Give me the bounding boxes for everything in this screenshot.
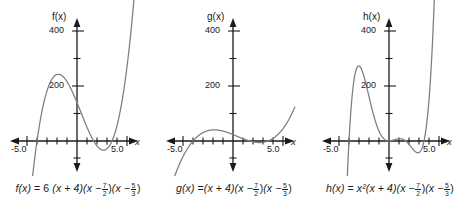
plot-title-g: g(x) (207, 11, 224, 22)
equation-f-factor3-open: (x − (112, 182, 130, 194)
y-ticks-g (228, 31, 240, 158)
x-axis-label-g: x (291, 136, 296, 147)
x-axis-label-h: x (447, 136, 452, 147)
y-axis-h (386, 18, 393, 172)
y-tick-label-f-400: 400 (49, 25, 64, 35)
equation-g: g(x) =(x + 4)(x −72)(x −53) (156, 182, 312, 197)
equation-f: f(x) = 6 (x + 4)(x −72)(x −53) (0, 182, 156, 197)
equation-f-coefficient: 6 (43, 182, 49, 194)
x-tick-label-g-left: -5.0 (167, 144, 183, 154)
equation-f-factor2-open: (x − (83, 182, 101, 194)
x-tick-label-g-right: 5.0 (267, 144, 280, 154)
equation-f-factor1: (x + 4) (52, 182, 83, 194)
x-tick-label-f-right: 5.0 (111, 144, 124, 154)
equation-h-equals: = (348, 182, 354, 194)
equation-g-fraction-2: 72 (253, 182, 259, 197)
plot-area-g: g(x) -5.0 5.0 x 200 400 (156, 0, 312, 176)
y-tick-label-f-200: 200 (49, 80, 64, 90)
y-axis-f (74, 18, 81, 172)
plot-area-h: h(x) -5.0 5.0 x 200 400 (312, 0, 468, 176)
equation-g-factor1: (x + 4) (204, 182, 235, 194)
y-tick-label-h-200: 200 (361, 80, 376, 90)
plot-area-f: f(x) -5.0 5.0 x 200 400 (0, 0, 156, 176)
equation-g-factor2-open: (x − (235, 182, 253, 194)
equation-g-factor3-open: (x − (263, 182, 281, 194)
three-polynomial-graphs-figure: f(x) -5.0 5.0 x 200 400 f(x) = 6 (x + 4)… (0, 0, 470, 214)
equation-f-lhs: f(x) (16, 182, 32, 194)
equation-h-factor3-close: ) (450, 182, 454, 194)
plot-panel-h: h(x) -5.0 5.0 x 200 400 h(x) = x²(x + 4)… (312, 0, 468, 214)
plot-title-h: h(x) (363, 11, 380, 22)
equation-h-lhs: h(x) (326, 182, 344, 194)
equation-h-factor1: (x + 4) (366, 182, 397, 194)
equation-f-equals: = (34, 182, 40, 194)
plot-panel-f: f(x) -5.0 5.0 x 200 400 f(x) = 6 (x + 4)… (0, 0, 156, 214)
equation-f-fraction-3: 53 (131, 182, 137, 197)
y-tick-label-g-400: 400 (205, 25, 220, 35)
x-tick-label-f-left: -5.0 (11, 144, 27, 154)
x-axis-label-f: x (135, 136, 140, 147)
equation-g-factor3-close: ) (288, 182, 292, 194)
equation-h-factor2-open: (x − (397, 182, 415, 194)
equation-h-factor3-open: (x − (425, 182, 443, 194)
equation-f-factor3-close: ) (137, 182, 141, 194)
equation-h-fraction-2: 72 (415, 182, 421, 197)
plot-title-f: f(x) (52, 11, 66, 22)
plot-panel-g: g(x) -5.0 5.0 x 200 400 g(x) =(x + 4)(x … (156, 0, 312, 214)
equation-g-lhs: g(x) (176, 182, 194, 194)
equation-h: h(x) = x²(x + 4)(x −72)(x −53) (312, 182, 468, 197)
x-tick-label-h-right: 5.0 (423, 144, 436, 154)
equation-f-fraction-2: 72 (102, 182, 108, 197)
x-tick-label-h-left: -5.0 (323, 144, 339, 154)
equation-g-fraction-3: 53 (282, 182, 288, 197)
y-tick-label-h-400: 400 (361, 25, 376, 35)
y-ticks-h (384, 31, 396, 158)
y-axis-g (230, 18, 237, 172)
equation-h-fraction-3: 53 (444, 182, 450, 197)
equation-h-coefficient: x² (357, 182, 366, 194)
y-tick-label-g-200: 200 (205, 80, 220, 90)
